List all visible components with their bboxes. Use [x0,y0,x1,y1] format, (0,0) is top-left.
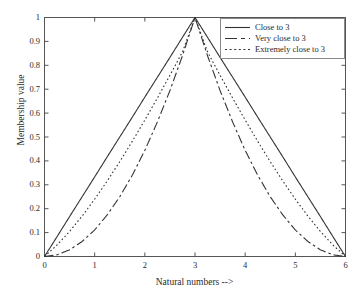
x-tick-label: 5 [285,261,305,270]
x-tick-label: 3 [185,261,205,270]
legend-item-very-close-to-3: Very close to 3 [224,33,340,44]
legend-sample-dotted-icon [224,44,251,55]
y-tick-label: 0.1 [16,228,40,237]
y-tick-label: 0.2 [16,204,40,213]
y-tick-label: 0 [16,252,40,261]
legend-item-close-to-3: Close to 3 [224,22,340,33]
x-tick-label: 1 [85,261,105,270]
legend-label: Extremely close to 3 [255,44,325,55]
legend: Close to 3 Very close to 3 Extremely clo… [220,18,345,59]
x-axis-label: Natural numbers --> [44,277,345,287]
y-tick-label: 1 [16,13,40,22]
legend-item-extremely-close-to-3: Extremely close to 3 [224,44,340,55]
x-tick-label: 0 [35,261,55,270]
legend-sample-dashed-icon [224,33,251,44]
legend-label: Close to 3 [255,22,289,33]
x-tick-labels: 0123456 [0,261,361,275]
legend-sample-solid-icon [224,22,251,33]
x-tick-label: 2 [135,261,155,270]
x-tick-label: 4 [235,261,255,270]
y-tick-label: 0.3 [16,180,40,189]
x-tick-label: 6 [336,261,356,270]
y-axis-label: Membership value [16,45,26,175]
legend-label: Very close to 3 [255,33,306,44]
figure: 00.10.20.30.40.50.60.70.80.91 0123456 Me… [0,0,361,300]
